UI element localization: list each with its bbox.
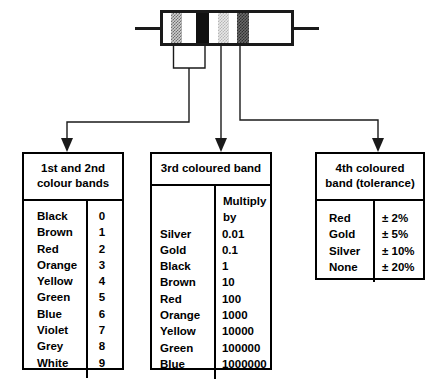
table-row: Blue 1000000 [152,356,270,372]
table-row: Silver 0.01 [152,226,270,242]
digit-value: 2 [85,241,122,257]
resistor-lead-right [291,27,319,30]
table-row: Green 5 [24,289,122,305]
line-to-colour-bands-box [67,68,189,148]
colour-name: Orange [24,257,85,273]
resistor-band-4 [237,13,249,43]
multiplier-value: 10 [213,274,270,290]
tolerance-value: ± 5% [372,226,423,242]
colour-name: Gold [317,226,372,242]
table-row: White 9 [24,355,122,371]
resistor-band-1 [171,13,182,43]
multiply-by-column-header: Multiply by [152,193,270,226]
colour-name: Yellow [24,273,85,289]
table-row: Gold 0.1 [152,242,270,258]
digit-value: 4 [85,273,122,289]
colour-name: None [317,259,372,275]
colour-name: Blue [24,306,85,322]
box-third-coloured-band-header: 3rd coloured band [152,154,270,186]
box-first-second-colour-bands-body: Black 0 Brown 1 Red 2 Orange 3 Yellow 4 … [24,201,122,378]
colour-name: Silver [152,226,213,242]
digit-value: 9 [85,355,122,371]
multiplier-value: 10000 [213,323,270,339]
table-row: Blue 6 [24,306,122,322]
colour-name: Black [24,208,85,224]
tolerance-value: ± 10% [372,243,423,259]
multiplier-value: 1000 [213,307,270,323]
table-row: Brown 10 [152,274,270,290]
table-row: Red 100 [152,291,270,307]
digit-value: 5 [85,289,122,305]
arrowhead-colour-bands [61,138,73,152]
multiplier-value: 1 [213,258,270,274]
colour-name: Gold [152,242,213,258]
header-line-2: band (tolerance) [321,176,419,191]
multiplier-value: 1000000 [213,356,270,372]
table-row: Yellow 4 [24,273,122,289]
table-row: Yellow 10000 [152,323,270,339]
line-to-tolerance-box [240,46,378,148]
colour-name: Green [152,340,213,356]
multiplier-value: 100 [213,291,270,307]
digit-value: 3 [85,257,122,273]
colour-name: Red [24,241,85,257]
resistor-band-3 [218,13,229,43]
digit-value: 0 [85,208,122,224]
digit-value: 8 [85,338,122,354]
box-first-second-colour-bands-header: 1st and 2nd colour bands [24,154,122,201]
multiplier-value: 0.01 [213,226,270,242]
column-divider [214,186,216,379]
box-third-coloured-band-body: Multiply by Silver 0.01 Gold 0.1 Black 1… [152,186,270,379]
header-line-2: colour bands [28,176,118,191]
colour-name: Yellow [152,323,213,339]
arrowhead-tolerance [372,138,384,152]
colour-name: Grey [24,338,85,354]
multiplier-value: 100000 [213,340,270,356]
table-row: Silver ± 10% [317,243,423,259]
table-row: Brown 1 [24,224,122,240]
colour-name: Violet [24,322,85,338]
box-third-coloured-band: 3rd coloured band Multiply by Silver 0.0… [150,152,272,370]
box-fourth-band-tolerance-header: 4th coloured band (tolerance) [317,154,423,201]
multiplier-value: 0.1 [213,242,270,258]
tolerance-value: ± 20% [372,259,423,275]
colour-name: Green [24,289,85,305]
colour-name: Orange [152,307,213,323]
table-row: Orange 3 [24,257,122,273]
box-fourth-band-tolerance-body: Red ± 2% Gold ± 5% Silver ± 10% None ± 2… [317,201,423,282]
header-line-1: 4th coloured [321,161,419,176]
colour-name: Red [317,210,372,226]
table-row: Orange 1000 [152,307,270,323]
digit-value: 7 [85,322,122,338]
resistor-band-2 [196,13,209,43]
colour-name: Blue [152,356,213,372]
resistor-body [160,10,294,46]
colour-name: White [24,355,85,371]
colour-name: Silver [317,243,372,259]
colour-name: Red [152,291,213,307]
header-line-1: 1st and 2nd [28,161,118,176]
table-row: Black 1 [152,258,270,274]
column-divider [86,201,88,378]
table-row: Red ± 2% [317,210,423,226]
box-first-second-colour-bands: 1st and 2nd colour bands Black 0 Brown 1… [22,152,124,370]
arrowhead-third-band [215,138,227,152]
table-row: None ± 20% [317,259,423,275]
digit-value: 6 [85,306,122,322]
table-row: Red 2 [24,241,122,257]
tolerance-value: ± 2% [372,210,423,226]
table-row: Black 0 [24,208,122,224]
table-row: Gold ± 5% [317,226,423,242]
resistor-colour-code-diagram: 1st and 2nd colour bands Black 0 Brown 1… [0,0,441,385]
table-row: Violet 7 [24,322,122,338]
table-row: Green 100000 [152,340,270,356]
colour-name: Brown [152,274,213,290]
colour-name: Brown [24,224,85,240]
colour-name: Black [152,258,213,274]
resistor-lead-left [135,27,163,30]
table-row: Grey 8 [24,338,122,354]
resistor-figure [0,0,441,60]
box-fourth-band-tolerance: 4th coloured band (tolerance) Red ± 2% G… [315,152,425,280]
digit-value: 1 [85,224,122,240]
column-divider [373,201,375,282]
